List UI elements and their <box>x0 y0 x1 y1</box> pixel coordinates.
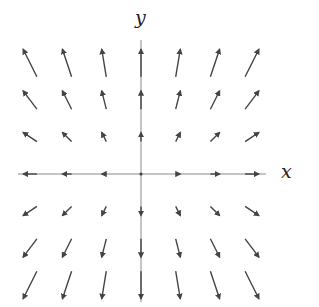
vector-arrow <box>245 206 259 215</box>
vector-arrow <box>23 91 37 109</box>
vector-arrow <box>23 271 37 299</box>
vector-field-diagram <box>0 0 319 307</box>
vector-arrow <box>210 132 219 141</box>
vector-arrow <box>176 91 181 109</box>
vector-arrow <box>23 49 37 77</box>
vector-arrow <box>245 271 259 299</box>
vector-arrow-origin <box>139 172 142 175</box>
vector-arrow <box>210 239 219 257</box>
vector-arrow <box>176 271 181 299</box>
vector-arrow <box>210 206 219 215</box>
vector-arrow <box>23 206 37 215</box>
vector-arrow <box>102 271 107 299</box>
vector-arrow <box>62 49 71 77</box>
vector-arrow <box>245 91 259 109</box>
vector-arrow <box>210 91 219 109</box>
vector-arrow <box>210 49 219 77</box>
vector-arrow <box>102 132 107 141</box>
vector-arrow <box>102 239 107 257</box>
vector-arrow <box>62 271 71 299</box>
vector-arrow <box>62 132 71 141</box>
vector-arrow <box>176 132 181 141</box>
x-axis-label: x <box>281 162 292 181</box>
vector-arrow <box>245 132 259 141</box>
vector-arrow <box>102 206 107 215</box>
vector-arrow <box>102 49 107 77</box>
vector-arrow <box>62 206 71 215</box>
vector-arrow <box>176 49 181 77</box>
vector-arrow <box>245 239 259 257</box>
vector-arrow <box>62 91 71 109</box>
vector-arrow <box>102 91 107 109</box>
vector-arrow <box>210 271 219 299</box>
vector-arrow <box>62 239 71 257</box>
vector-arrow <box>23 239 37 257</box>
vector-arrow <box>176 239 181 257</box>
vector-arrow <box>245 49 259 77</box>
vector-arrow <box>176 206 181 215</box>
vector-arrow <box>23 132 37 141</box>
y-axis-label: y <box>135 8 146 27</box>
